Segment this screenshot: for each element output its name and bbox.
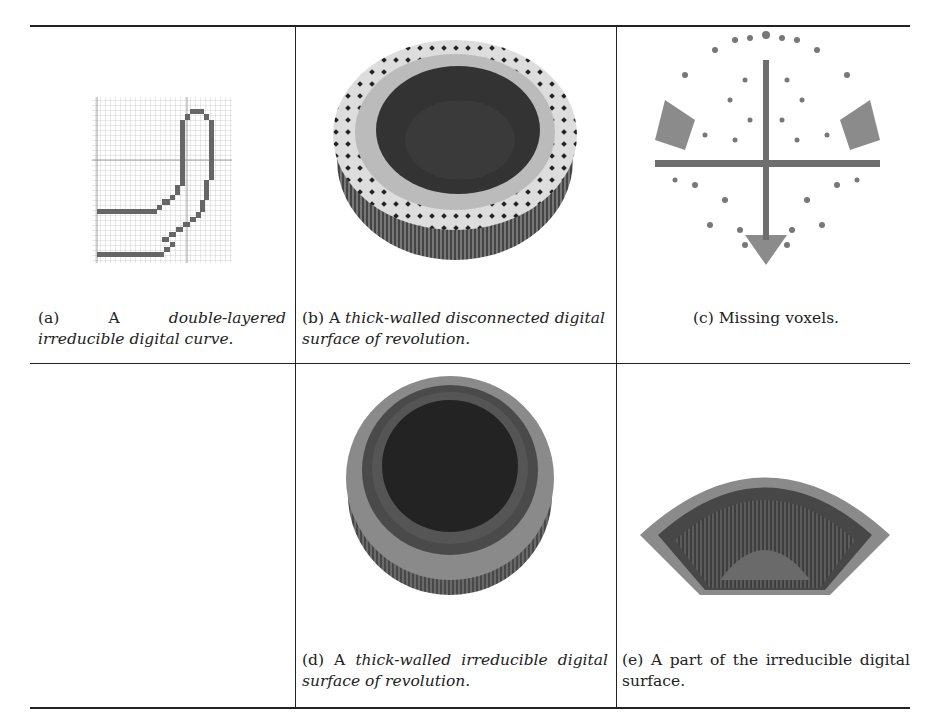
panel-d-caption-italic: thick-walled irreducible digital surface…	[302, 651, 608, 690]
panel-a-caption: (a) A double-layered irreducible digital…	[38, 308, 286, 350]
panel-c-caption: (c) Missing voxels.	[622, 308, 910, 329]
panel-a-caption-italic: double-layered irreducible digital curve…	[38, 309, 286, 348]
panel-c-label: (c)	[693, 309, 714, 327]
panel-d-image	[320, 370, 580, 600]
panel-e-caption: (e) A part of the irreducible digital su…	[622, 650, 910, 692]
column-divider-1	[295, 27, 296, 707]
panel-d-label: (d)	[302, 651, 324, 669]
panel-a-image	[90, 95, 235, 265]
voxel-bowl-disconnected-icon	[330, 30, 580, 265]
panel-e-label: (e)	[622, 651, 643, 669]
panel-e-image	[630, 450, 900, 600]
panel-a-label: (a)	[38, 309, 59, 327]
column-divider-2-lower	[616, 364, 617, 707]
table-middle-rule	[30, 363, 910, 364]
table-bottom-rule	[30, 707, 910, 709]
column-divider-2	[616, 27, 617, 364]
panel-b-caption-italic: thick-walled disconnected digital surfac…	[302, 309, 605, 348]
panel-d-caption: (d) A thick-walled irreducible digital s…	[302, 650, 608, 692]
panel-c-image	[635, 30, 900, 270]
voxel-bowl-irreducible-icon	[320, 370, 580, 600]
voxel-bowl-part-icon	[630, 450, 900, 600]
table-top-rule	[30, 25, 910, 27]
panel-b-caption: (b) A thick-walled disconnected digital …	[302, 308, 608, 350]
panel-b-label: (b)	[302, 309, 324, 327]
missing-voxels-scatter-icon	[635, 30, 900, 270]
panel-b-image	[330, 30, 580, 265]
digital-curve-grid-icon	[90, 95, 235, 265]
